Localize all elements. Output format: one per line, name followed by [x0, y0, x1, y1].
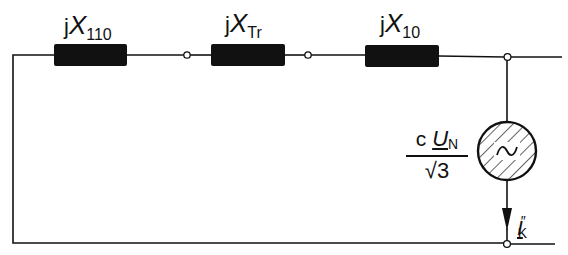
label-x110: jX110: [64, 12, 112, 38]
current-arrow-icon: [502, 208, 512, 231]
source-voltage-label: c UN √3: [406, 128, 468, 182]
node-4: [504, 241, 511, 248]
reactance-x10: [365, 45, 439, 67]
wire-x10-to-node3: [439, 56, 504, 57]
short-circuit-current-label: I″K: [517, 217, 537, 238]
node-3: [504, 54, 511, 61]
label-xtr-symbol: X: [230, 8, 247, 38]
node-2: [305, 52, 311, 58]
node-1: [184, 52, 190, 58]
label-xtr: jXTr: [225, 10, 262, 36]
label-x110-subscript: 110: [86, 26, 112, 43]
reactance-x110: [54, 44, 127, 66]
label-x10-symbol: X: [385, 8, 402, 38]
current-subscript: K: [518, 225, 527, 241]
source-voltage-denominator: √3: [406, 160, 468, 182]
reactance-xtr: [211, 44, 285, 66]
label-x10: jX10: [380, 10, 420, 36]
label-xtr-subscript: Tr: [247, 24, 262, 41]
voltage-factor: c: [416, 127, 427, 150]
fraction-bar: [406, 155, 468, 157]
voltage-source-icon: [476, 120, 538, 182]
voltage-subscript: N: [448, 136, 458, 152]
source-voltage-numerator: c UN: [406, 128, 468, 152]
label-x10-subscript: 10: [402, 24, 420, 41]
label-x110-symbol: X: [69, 10, 86, 40]
voltage-symbol: U: [432, 126, 448, 151]
